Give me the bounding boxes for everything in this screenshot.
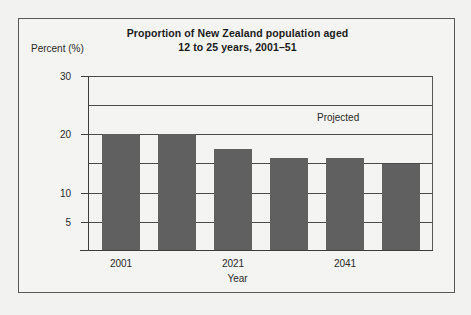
y-axis-line: [88, 76, 89, 251]
x-tick-label-2041: 2041: [334, 258, 356, 269]
bar-2031[interactable]: [270, 158, 308, 251]
bar-2001[interactable]: [102, 134, 140, 251]
bar-2041[interactable]: [326, 158, 364, 251]
y-tick-20: 20: [81, 134, 88, 135]
x-tick-label-2001: 2001: [110, 258, 132, 269]
y-tick-label-5: 5: [65, 217, 71, 228]
plot-right-edge: [432, 76, 433, 251]
x-tick-label-2021: 2021: [222, 258, 244, 269]
x-axis-label: Year: [19, 273, 456, 284]
bar-2051[interactable]: [382, 164, 420, 251]
y-tick-label-30: 30: [60, 71, 71, 82]
chart-title-line-2: 12 to 25 years, 2001–51: [19, 40, 456, 54]
bar-2021[interactable]: [214, 149, 252, 251]
chart-figure: Proportion of New Zealand population age…: [18, 18, 455, 293]
bar-2011[interactable]: [158, 134, 196, 251]
x-axis-line: [80, 250, 433, 251]
y-tick-label-10: 10: [60, 188, 71, 199]
y-tick-30: 30: [81, 76, 88, 77]
plot-area: 30 20 10 5 2001 2021 2041 Projected: [88, 76, 433, 251]
chart-title: Proportion of New Zealand population age…: [19, 26, 456, 54]
chart-title-line-1: Proportion of New Zealand population age…: [127, 27, 349, 39]
y-tick-10: 10: [81, 193, 88, 194]
projected-annotation: Projected: [317, 112, 359, 123]
y-axis-label: Percent (%): [31, 43, 84, 54]
bars-layer: [88, 76, 433, 251]
y-tick-label-20: 20: [60, 129, 71, 140]
y-tick-5: 5: [81, 222, 88, 223]
